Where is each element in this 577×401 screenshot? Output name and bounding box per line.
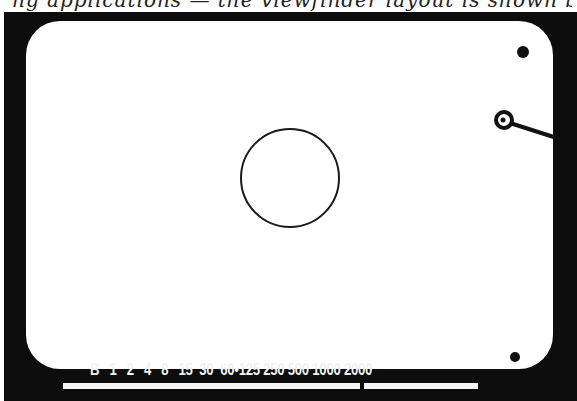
meter-needle-icon xyxy=(496,112,560,139)
bottom-indicator-dot-icon xyxy=(510,352,520,362)
top-indicator-dot-icon xyxy=(517,46,529,58)
shutter-speed-scale: B 1 2 4 8 15 30 60•125 250 500 1000 2000 xyxy=(90,361,418,383)
shutter-speed-label: B 1 2 4 8 15 30 60•125 250 500 1000 2000 xyxy=(90,361,372,383)
center-focus-circle-icon xyxy=(241,129,339,227)
scale-bar-left xyxy=(63,383,360,389)
viewfinder-markings xyxy=(0,0,577,401)
scale-bar-right xyxy=(364,383,478,389)
